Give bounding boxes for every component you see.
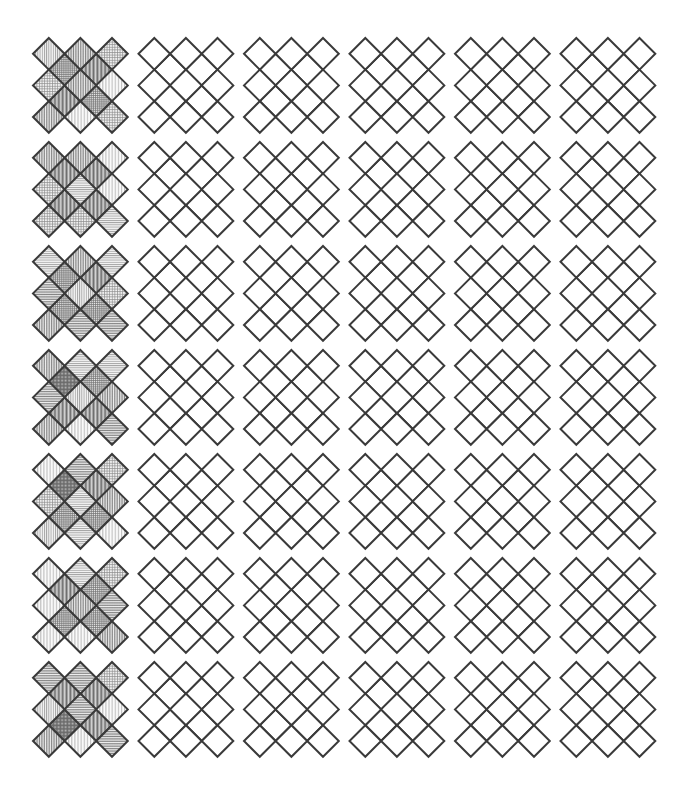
main-diamonds [561,558,656,653]
lattice-tile [455,350,550,445]
lattice-tile [455,38,550,133]
main-diamonds [33,38,128,133]
lattice-tile [244,558,339,653]
lattice-tile [561,558,656,653]
lattice-tile [33,350,128,445]
lattice-tile [350,662,445,757]
lattice-tile [33,38,128,133]
main-diamonds [561,246,656,341]
lattice-tile [139,662,234,757]
main-diamonds [455,662,550,757]
main-diamonds [350,350,445,445]
lattice-tile [244,454,339,549]
main-diamonds [139,142,234,237]
main-diamonds [350,662,445,757]
lattice-tile [139,454,234,549]
main-diamonds [350,38,445,133]
main-diamonds [244,662,339,757]
main-diamonds [139,350,234,445]
main-diamonds [139,38,234,133]
lattice-tile [33,454,128,549]
lattice-tile [561,350,656,445]
main-diamonds [350,246,445,341]
lattice-tile [244,38,339,133]
main-diamonds [33,246,128,341]
lattice-tile [561,142,656,237]
main-diamonds [244,454,339,549]
lattice-tile [350,142,445,237]
main-diamonds [350,558,445,653]
main-diamonds [455,454,550,549]
main-diamonds [139,454,234,549]
main-diamonds [455,246,550,341]
lattice-tile [455,142,550,237]
main-diamonds [561,662,656,757]
diamond-lattice-grid-figure [0,0,676,800]
main-diamonds [455,558,550,653]
main-diamonds [33,142,128,237]
main-diamonds [561,454,656,549]
lattice-tile [455,246,550,341]
lattice-tile [455,558,550,653]
lattice-tile [455,662,550,757]
lattice-tile [244,350,339,445]
lattice-tile [561,662,656,757]
lattice-tile [561,454,656,549]
main-diamonds [33,350,128,445]
main-diamonds [561,350,656,445]
main-diamonds [33,558,128,653]
main-diamonds [561,142,656,237]
lattice-tile [350,558,445,653]
main-diamonds [244,38,339,133]
main-diamonds [561,38,656,133]
lattice-tile [350,246,445,341]
lattice-tile [139,558,234,653]
lattice-grid-canvas [0,0,676,800]
lattice-tile [33,142,128,237]
lattice-tile [139,38,234,133]
main-diamonds [350,142,445,237]
lattice-tile [455,454,550,549]
lattice-tile [350,350,445,445]
main-diamonds [455,38,550,133]
lattice-tile [350,38,445,133]
lattice-tile [244,662,339,757]
main-diamonds [139,558,234,653]
lattice-tile [139,350,234,445]
main-diamonds [244,246,339,341]
lattice-tile [244,142,339,237]
lattice-tile [139,142,234,237]
main-diamonds [33,454,128,549]
main-diamonds [244,142,339,237]
lattice-tile [244,246,339,341]
main-diamonds [139,662,234,757]
main-diamonds [244,558,339,653]
lattice-tile [561,246,656,341]
main-diamonds [455,350,550,445]
lattice-tile [350,454,445,549]
main-diamonds [350,454,445,549]
lattice-tile [33,662,128,757]
main-diamonds [33,662,128,757]
lattice-tile [561,38,656,133]
main-diamonds [139,246,234,341]
main-diamonds [244,350,339,445]
lattice-tile [33,246,128,341]
lattice-tile [33,558,128,653]
main-diamonds [455,142,550,237]
lattice-tile [139,246,234,341]
